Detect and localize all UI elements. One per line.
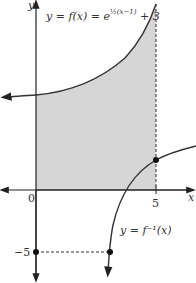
graph: y x 0 5 −5 y = f(x) = e½(x−1) + 3 y = f⁻… (0, 0, 196, 283)
point-y-axis-minus5 (33, 249, 39, 255)
finv-equation-label: y = f⁻¹(x) (119, 224, 172, 237)
f-equation-label: y = f(x) = e½(x−1) + 3 (45, 8, 160, 23)
y-axis-label: y (27, 0, 35, 12)
point-finv-minus5 (107, 249, 113, 255)
point-finv-at-5 (153, 157, 159, 163)
x-axis-label: x (188, 191, 195, 204)
x-tick-label-5: 5 (152, 197, 159, 210)
origin-label: 0 (28, 192, 35, 205)
shaded-area (36, 4, 156, 190)
y-tick-label-minus5: −5 (14, 246, 30, 259)
